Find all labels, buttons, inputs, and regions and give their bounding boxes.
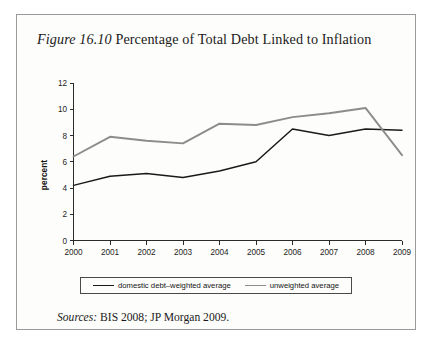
chart-series-group bbox=[74, 108, 403, 185]
y-tick-label: 0 bbox=[62, 237, 67, 246]
x-tick-label: 2008 bbox=[356, 248, 375, 257]
y-tick-label: 10 bbox=[58, 105, 68, 114]
x-tick-label: 2007 bbox=[320, 248, 339, 257]
x-tick-label: 2009 bbox=[393, 248, 412, 257]
legend-label-domestic: domestic debt–weighted average bbox=[118, 281, 231, 290]
x-tick-label: 2005 bbox=[247, 248, 266, 257]
legend-swatch-domestic bbox=[93, 285, 114, 286]
x-axis-ticks: 2000200120022003200420052006200720082009 bbox=[64, 241, 411, 257]
legend-item-unweighted: unweighted average bbox=[245, 281, 339, 290]
x-tick-label: 2004 bbox=[210, 248, 229, 257]
x-tick-label: 2003 bbox=[174, 248, 193, 257]
sources-text: BIS 2008; JP Morgan 2009. bbox=[97, 311, 229, 324]
legend-swatch-unweighted bbox=[245, 285, 266, 286]
series-line-unweighted bbox=[74, 108, 403, 157]
legend-item-domestic: domestic debt–weighted average bbox=[93, 281, 231, 290]
y-tick-label: 4 bbox=[62, 184, 67, 193]
y-axis-ticks: 024681012 bbox=[58, 79, 74, 246]
x-tick-label: 2000 bbox=[64, 248, 83, 257]
y-tick-label: 2 bbox=[62, 210, 67, 219]
y-tick-label: 8 bbox=[62, 132, 67, 141]
x-tick-label: 2002 bbox=[137, 248, 156, 257]
sources-label: Sources: bbox=[57, 311, 97, 324]
y-axis: 024681012 percent bbox=[39, 79, 74, 246]
chart-legend: domestic debt–weighted average unweighte… bbox=[80, 277, 352, 294]
x-tick-label: 2001 bbox=[101, 248, 120, 257]
y-axis-title: percent bbox=[39, 160, 49, 190]
y-tick-label: 12 bbox=[58, 79, 68, 88]
x-tick-label: 2006 bbox=[283, 248, 302, 257]
legend-label-unweighted: unweighted average bbox=[270, 281, 339, 290]
x-axis: 2000200120022003200420052006200720082009 bbox=[64, 241, 411, 257]
figure-frame: Figure 16.10 Percentage of Total Debt Li… bbox=[16, 14, 416, 330]
y-tick-label: 6 bbox=[62, 158, 67, 167]
sources-note: Sources: BIS 2008; JP Morgan 2009. bbox=[57, 311, 229, 324]
